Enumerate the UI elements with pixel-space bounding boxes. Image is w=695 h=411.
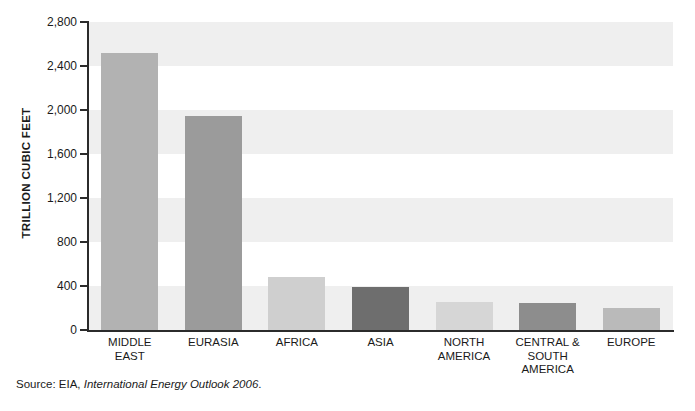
- y-axis-tick-label: 400: [17, 280, 77, 292]
- y-axis-tick-mark: [80, 329, 88, 331]
- bar: [603, 308, 660, 330]
- y-axis-tick-label: 2,800: [17, 16, 77, 28]
- y-axis-tick-mark: [80, 21, 88, 23]
- bar: [101, 53, 158, 330]
- x-axis-line: [87, 330, 674, 332]
- bar: [519, 303, 576, 330]
- bar: [352, 287, 409, 330]
- background-band: [88, 110, 673, 154]
- source-note: Source: EIA, International Energy Outloo…: [16, 378, 262, 390]
- y-axis-tick-mark: [80, 197, 88, 199]
- x-axis-category-label: AFRICA: [255, 336, 339, 350]
- y-axis-tick-label: 1,200: [17, 192, 77, 204]
- background-band: [88, 198, 673, 242]
- y-axis-tick-label: 2,400: [17, 60, 77, 72]
- x-axis-category-label: EURASIA: [172, 336, 256, 350]
- y-axis-tick-label: 2,000: [17, 104, 77, 116]
- background-band: [88, 22, 673, 66]
- plot-area: [88, 22, 673, 330]
- y-axis-tick-mark: [80, 241, 88, 243]
- y-axis-tick-mark: [80, 285, 88, 287]
- x-axis-category-label: NORTH AMERICA: [422, 336, 506, 363]
- y-axis-tick-label: 1,600: [17, 148, 77, 160]
- y-axis-tick-label: 800: [17, 236, 77, 248]
- y-axis-tick-mark: [80, 109, 88, 111]
- bar: [436, 302, 493, 330]
- y-axis-tick-mark: [80, 65, 88, 67]
- x-axis-category-label: EUROPE: [589, 336, 673, 350]
- x-axis-category-label: ASIA: [339, 336, 423, 350]
- x-axis-category-label: CENTRAL & SOUTH AMERICA: [506, 336, 590, 377]
- source-publication-title: International Energy Outlook 2006: [84, 378, 259, 390]
- bar: [185, 116, 242, 331]
- bar-chart-figure: TRILLION CUBIC FEET 04008001,2001,6002,0…: [0, 0, 695, 411]
- bar: [268, 277, 325, 330]
- x-axis-category-label: MIDDLE EAST: [88, 336, 172, 363]
- source-suffix: .: [258, 378, 261, 390]
- y-axis-tick-label: 0: [17, 324, 77, 336]
- y-axis-tick-mark: [80, 153, 88, 155]
- source-prefix: Source: EIA,: [16, 378, 84, 390]
